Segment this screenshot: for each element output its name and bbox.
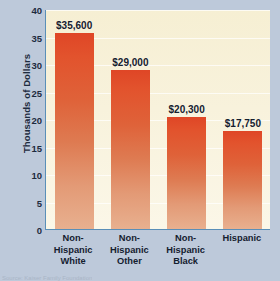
category-label-line: Hispanic xyxy=(110,245,149,257)
source-note: Source: Kaiser Family Foundation xyxy=(2,275,92,281)
y-axis-tick-label: 30 xyxy=(31,60,42,71)
category-label-line: Non- xyxy=(110,233,149,245)
chart-figure: Thousands of Dollars 0510152025303540 $3… xyxy=(0,0,280,281)
y-axis-tick-label: 0 xyxy=(37,225,42,236)
bar[interactable] xyxy=(111,70,150,230)
y-axis-tick-labels: 0510152025303540 xyxy=(22,10,42,230)
gridline xyxy=(46,10,270,11)
y-axis-tick-label: 10 xyxy=(31,170,42,181)
category-label-line: Non- xyxy=(166,233,205,245)
bar-value-label: $35,600 xyxy=(56,20,92,31)
x-axis-category-label: Non-HispanicWhite xyxy=(54,233,93,268)
bar[interactable] xyxy=(167,117,206,229)
x-axis-category-labels: Non-HispanicWhiteNon-HispanicOtherNon-Hi… xyxy=(45,233,270,275)
bar[interactable] xyxy=(223,131,262,229)
y-axis-tick-label: 40 xyxy=(31,5,42,16)
category-label-line: White xyxy=(54,256,93,268)
y-axis-tick-label: 35 xyxy=(31,32,42,43)
category-label-line: Hispanic xyxy=(166,245,205,257)
x-axis-category-label: Non-HispanicOther xyxy=(110,233,149,268)
x-axis-category-label: Hispanic xyxy=(223,233,262,245)
category-label-line: Hispanic xyxy=(54,245,93,257)
y-axis-tick-label: 15 xyxy=(31,142,42,153)
x-axis-category-label: Non-HispanicBlack xyxy=(166,233,205,268)
bar[interactable] xyxy=(55,33,94,229)
category-label-line: Hispanic xyxy=(223,233,262,245)
y-axis-tick-label: 5 xyxy=(37,197,42,208)
plot-area: $35,600$29,000$20,300$17,750 xyxy=(45,10,270,230)
bar-value-label: $20,300 xyxy=(169,104,205,115)
category-label-line: Non- xyxy=(54,233,93,245)
bar-value-label: $17,750 xyxy=(225,118,261,129)
bar-value-label: $29,000 xyxy=(112,57,148,68)
category-label-line: Black xyxy=(166,256,205,268)
category-label-line: Other xyxy=(110,256,149,268)
y-axis-tick-label: 20 xyxy=(31,115,42,126)
y-axis-tick-label: 25 xyxy=(31,87,42,98)
